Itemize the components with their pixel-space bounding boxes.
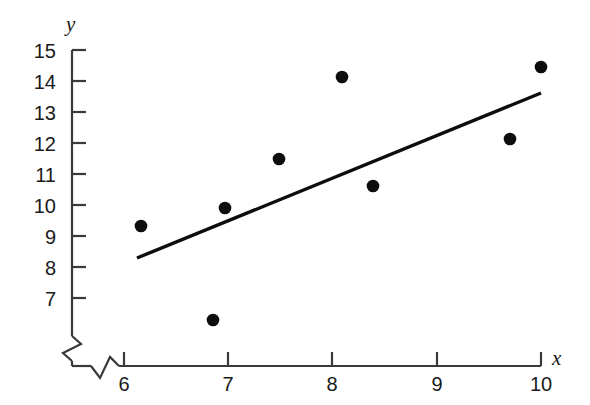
y-tick-label-11: 11 <box>16 165 56 185</box>
x-tick-label-6: 6 <box>104 374 144 394</box>
plot-canvas <box>0 0 590 405</box>
x-tick-label-7: 7 <box>208 374 248 394</box>
y-tick-label-13: 13 <box>16 103 56 123</box>
x-tick-label-8: 8 <box>312 374 352 394</box>
y-tick-label-7: 7 <box>16 289 56 309</box>
y-tick-label-15: 15 <box>16 41 56 61</box>
x-axis-ticks <box>124 352 541 366</box>
y-axis-break-icon <box>63 336 81 361</box>
x-tick-label-10: 10 <box>521 374 561 394</box>
trend-line <box>137 93 541 258</box>
data-point <box>207 314 220 327</box>
data-point <box>504 133 517 146</box>
scatter-plot-figure: 15 14 13 12 11 10 9 8 7 6 7 8 9 10 y x <box>0 0 590 405</box>
data-points <box>135 61 548 327</box>
y-tick-label-12: 12 <box>16 134 56 154</box>
data-point <box>219 202 232 215</box>
y-tick-label-10: 10 <box>16 196 56 216</box>
y-axis-title: y <box>66 14 75 35</box>
x-tick-label-9: 9 <box>417 374 457 394</box>
data-point <box>135 220 148 233</box>
data-point <box>273 153 286 166</box>
y-tick-label-9: 9 <box>16 227 56 247</box>
data-point <box>336 71 349 84</box>
y-axis-ticks <box>72 50 86 298</box>
y-tick-label-8: 8 <box>16 258 56 278</box>
x-axis-title: x <box>552 348 561 369</box>
data-point <box>367 180 380 193</box>
y-tick-label-14: 14 <box>16 72 56 92</box>
data-point <box>535 61 548 74</box>
